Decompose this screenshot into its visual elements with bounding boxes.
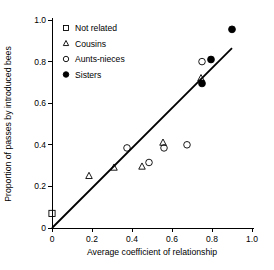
x-tick-label-5: 1.0 <box>246 234 258 244</box>
datapoint-sisters-1 <box>208 56 215 63</box>
legend-label-cousins: Cousins <box>75 39 106 49</box>
y-axis-title: Proportion of passes by introduced bees <box>3 46 13 202</box>
x-tick-label-1: 0.2 <box>86 234 98 244</box>
legend-marker-not-related <box>63 25 68 30</box>
y-tick-label-2: 0.4 <box>34 140 46 150</box>
legend-label-not-related: Not related <box>75 23 117 33</box>
datapoint-aunts-nieces-4 <box>199 58 206 65</box>
legend-label-aunts-nieces: Aunts-nieces <box>75 54 125 64</box>
x-tick-label-2: 0.4 <box>126 234 138 244</box>
y-tick-label-0: 0 <box>41 223 46 233</box>
x-tick-label-3: 0.6 <box>166 234 178 244</box>
x-tick-label-4: 0.8 <box>206 234 218 244</box>
datapoint-aunts-nieces-1 <box>146 159 153 166</box>
x-tick-label-0: 0 <box>50 234 55 244</box>
y-tick-label-3: 0.6 <box>34 98 46 108</box>
y-tick-label-4: 0.8 <box>34 57 46 67</box>
datapoint-sisters-0 <box>199 80 206 87</box>
x-axis-title: Average coefficient of relationship <box>87 247 217 257</box>
datapoint-cousins-0 <box>86 172 93 178</box>
legend-marker-cousins <box>63 40 68 45</box>
y-tick-label-5: 1.0 <box>34 15 46 25</box>
legend-label-sisters: Sisters <box>75 70 101 80</box>
datapoint-aunts-nieces-3 <box>184 142 191 149</box>
scatter-plot-figure: 00.20.40.60.81.000.20.40.60.81.0Average … <box>0 0 274 270</box>
y-tick-label-1: 0.2 <box>34 181 46 191</box>
datapoint-cousins-2 <box>139 163 146 169</box>
legend-marker-aunts-nieces <box>63 56 68 61</box>
datapoint-aunts-nieces-0 <box>124 145 131 152</box>
legend-marker-sisters <box>63 72 69 78</box>
plot-canvas: 00.20.40.60.81.000.20.40.60.81.0Average … <box>0 0 274 270</box>
datapoint-sisters-2 <box>229 26 236 33</box>
